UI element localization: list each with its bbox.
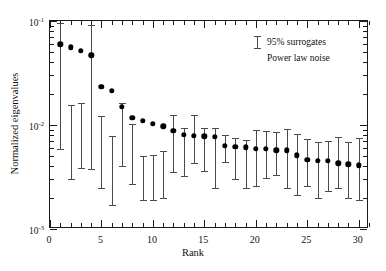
error-bar-cap — [263, 131, 270, 132]
x-tick-minor-top — [318, 21, 319, 25]
data-point — [325, 158, 330, 163]
x-tick-minor — [266, 223, 267, 227]
error-bar — [143, 156, 144, 200]
data-point — [58, 42, 63, 47]
error-bar-cap — [243, 140, 250, 141]
data-point — [99, 84, 104, 89]
y-tick-minor — [50, 179, 54, 180]
y-tick-label: 10-2 — [12, 119, 44, 133]
error-bar-cap — [109, 136, 116, 137]
x-tick-minor — [246, 223, 247, 227]
error-bar-cap — [294, 134, 301, 135]
error-bar-cap — [109, 205, 116, 206]
error-bar-cap — [325, 191, 332, 192]
y-tick-minor — [50, 130, 54, 131]
x-tick-minor — [132, 223, 133, 227]
y-tick-minor — [50, 44, 54, 45]
error-bar-cap — [140, 200, 147, 201]
data-point — [284, 148, 289, 153]
data-point — [243, 145, 248, 150]
x-tick-minor — [318, 223, 319, 227]
errorbar-icon — [257, 36, 258, 49]
y-tick-label: 10-1 — [12, 15, 44, 29]
y-tick-minor-right — [363, 75, 367, 76]
error-bar-cap — [273, 132, 280, 133]
x-tick-label: 15 — [198, 235, 208, 245]
data-point — [160, 124, 165, 129]
y-tick-major-right — [360, 229, 367, 230]
x-tick-minor — [348, 223, 349, 227]
error-bar — [297, 134, 298, 196]
y-tick-minor-right — [363, 31, 367, 32]
x-tick-minor — [112, 223, 113, 227]
x-tick-minor — [91, 223, 92, 227]
error-bar — [122, 103, 123, 166]
data-point — [78, 48, 83, 53]
y-tick-minor — [50, 166, 54, 167]
error-bar-cap — [304, 139, 311, 140]
x-tick-major — [153, 220, 154, 227]
y-tick-major — [50, 21, 57, 22]
error-bar-cap — [78, 168, 85, 169]
error-bar — [101, 116, 102, 187]
x-tick-major-top — [256, 21, 257, 28]
x-tick-minor — [369, 223, 370, 227]
y-tick-major — [50, 229, 57, 230]
error-bar-cap — [170, 115, 177, 116]
x-axis-title: Rank — [0, 247, 386, 258]
x-tick-label: 20 — [250, 235, 260, 245]
x-tick-major-top — [359, 21, 360, 28]
y-tick-minor-right — [363, 148, 367, 149]
x-tick-minor — [173, 223, 174, 227]
error-bar-cap — [88, 25, 95, 26]
x-tick-minor-top — [348, 21, 349, 25]
y-tick-major-right — [360, 21, 367, 22]
x-tick-major-top — [101, 21, 102, 28]
data-point — [150, 121, 155, 126]
y-tick-minor-right — [363, 130, 367, 131]
error-bar-cap — [345, 198, 352, 199]
y-tick-minor-right — [363, 141, 367, 142]
error-bar-cap — [284, 129, 291, 130]
error-bar — [153, 155, 154, 200]
data-point — [171, 128, 176, 133]
data-point — [88, 53, 93, 58]
x-tick-major — [204, 220, 205, 227]
y-tick-minor — [50, 75, 54, 76]
x-tick-minor — [194, 223, 195, 227]
plot-area — [49, 20, 368, 228]
x-tick-minor-top — [297, 21, 298, 25]
y-tick-minor-right — [363, 26, 367, 27]
error-bar — [307, 139, 308, 186]
error-bar-cap — [212, 128, 219, 129]
error-bar-cap — [294, 195, 301, 196]
x-tick-label: 0 — [47, 235, 52, 245]
error-bar-cap — [315, 198, 322, 199]
data-point — [119, 104, 124, 109]
x-tick-major — [101, 220, 102, 227]
error-bar-cap — [273, 175, 280, 176]
y-tick-minor-right — [363, 166, 367, 167]
error-bar-cap — [232, 179, 239, 180]
x-tick-label: 10 — [147, 235, 157, 245]
error-bar — [132, 124, 133, 184]
y-tick-minor-right — [363, 156, 367, 157]
x-tick-minor — [297, 223, 298, 227]
x-tick-major-top — [204, 21, 205, 28]
x-tick-minor — [328, 223, 329, 227]
data-point — [346, 161, 351, 166]
error-bar — [91, 25, 92, 169]
data-point — [294, 153, 299, 158]
x-tick-minor — [338, 223, 339, 227]
error-bar — [112, 136, 113, 205]
data-point — [212, 134, 217, 139]
error-bar-cap — [129, 184, 136, 185]
y-tick-minor — [50, 141, 54, 142]
error-bar-cap — [119, 166, 126, 167]
error-bar-cap — [88, 169, 95, 170]
error-bar — [163, 151, 164, 198]
error-bar-cap — [191, 115, 198, 116]
x-tick-minor-top — [112, 21, 113, 25]
y-tick-major-right — [360, 125, 367, 126]
error-bar — [225, 135, 226, 162]
